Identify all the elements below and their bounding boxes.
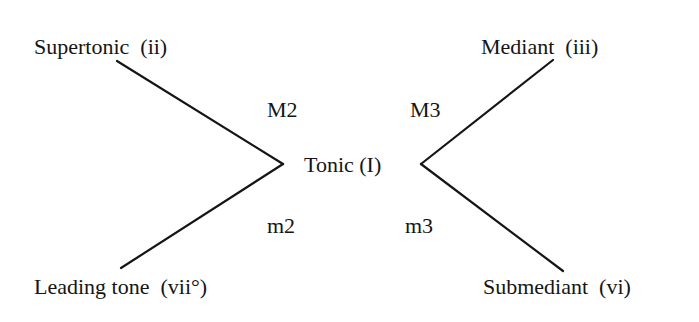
line-leading-tone — [121, 164, 283, 268]
node-leading-tone: Leading tone (vii°) — [34, 276, 207, 298]
node-tonic: Tonic (I) — [304, 154, 381, 176]
node-mediant: Mediant (iii) — [481, 36, 598, 58]
line-supertonic — [117, 61, 283, 164]
scale-degree-diagram: Supertonic (ii) Mediant (iii) Tonic (I) … — [0, 0, 699, 322]
interval-m2-major: M2 — [267, 99, 298, 121]
node-supertonic: Supertonic (ii) — [34, 36, 167, 58]
interval-m2-minor: m2 — [267, 215, 295, 237]
line-submediant — [421, 164, 563, 271]
interval-m3-minor: m3 — [405, 215, 433, 237]
interval-m3-major: M3 — [410, 99, 441, 121]
line-mediant — [421, 60, 553, 164]
node-submediant: Submediant (vi) — [483, 276, 631, 298]
